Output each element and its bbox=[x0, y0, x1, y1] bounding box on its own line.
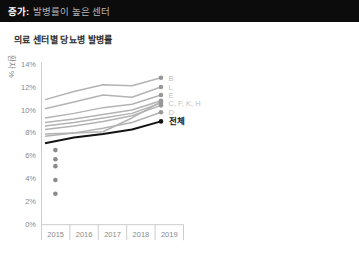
end-label-B: B bbox=[169, 74, 174, 83]
isolated-point bbox=[53, 164, 58, 169]
x-tick-label: 2015 bbox=[47, 230, 64, 239]
y-tick-label: 0% bbox=[25, 220, 36, 229]
series-endpoint-전체 bbox=[159, 119, 164, 124]
line-chart: 201520162017201820190%2%4%6%8%10%12%14%환… bbox=[0, 50, 359, 263]
chart-title: 의료 센터별 당뇨병 발병률 bbox=[14, 33, 112, 46]
y-tick-label: 12% bbox=[21, 83, 36, 92]
isolated-point bbox=[53, 191, 58, 196]
header-title: 발병률이 높은 센터 bbox=[33, 4, 110, 18]
isolated-point bbox=[53, 178, 58, 183]
series-endpoint-D bbox=[159, 110, 164, 115]
y-tick-label: 14% bbox=[21, 60, 36, 69]
isolated-point bbox=[53, 157, 58, 162]
x-tick-label: 2016 bbox=[76, 230, 93, 239]
y-tick-label: 2% bbox=[25, 197, 36, 206]
series-endpoint-B bbox=[159, 75, 164, 80]
y-tick-label: 4% bbox=[25, 174, 36, 183]
x-tick-label: 2019 bbox=[161, 230, 178, 239]
x-tick-label: 2017 bbox=[104, 230, 121, 239]
y-tick-label: 6% bbox=[25, 151, 36, 160]
report-page: 증가: 발병률이 높은 센터 의료 센터별 당뇨병 발병률 2015201620… bbox=[0, 0, 359, 263]
series-endpoint-E bbox=[159, 93, 164, 98]
y-tick-label: 10% bbox=[21, 106, 36, 115]
y-tick-label: 8% bbox=[25, 128, 36, 137]
end-label-C, F, K, H: C, F, K, H bbox=[169, 99, 201, 108]
series-endpoint-L bbox=[159, 85, 164, 90]
series-endpoint-H bbox=[159, 103, 164, 108]
header-prefix: 증가: bbox=[8, 4, 29, 18]
header-bar: 증가: 발병률이 높은 센터 bbox=[0, 0, 359, 22]
end-label-전체: 전체 bbox=[169, 116, 185, 126]
y-axis-title: 환자 % bbox=[7, 55, 17, 78]
x-tick-label: 2018 bbox=[133, 230, 150, 239]
series-line-B bbox=[45, 78, 161, 100]
isolated-point bbox=[53, 148, 58, 153]
